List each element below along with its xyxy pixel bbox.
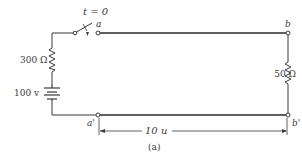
switch-time-label: t = 0 [83,6,109,17]
dimension-arrow [99,118,287,135]
dimension-label: 10 u [145,125,167,136]
resistor-50-label: 50 Ω [274,69,296,79]
resistor-300-label: 300 Ω [20,55,48,65]
resistor-300-icon [49,48,55,72]
battery-icon [44,84,60,101]
terminal-a-prime-label: a' [87,118,95,128]
terminal-a-prime-icon [96,113,100,117]
circuit-diagram: t = 0 a b a' b' 300 Ω 100 v 50 Ω 10 u (a… [0,0,302,159]
terminal-a-label: a [96,19,101,29]
left-wire [52,33,96,115]
terminal-b-prime-label: b' [292,118,300,128]
terminal-b-label: b [285,19,291,29]
terminal-a-icon [96,31,100,35]
switch-icon [73,23,92,36]
terminal-b-prime-icon [286,113,290,117]
battery-label: 100 v [14,88,40,98]
terminal-b-icon [286,31,290,35]
figure-caption: (a) [148,142,160,152]
